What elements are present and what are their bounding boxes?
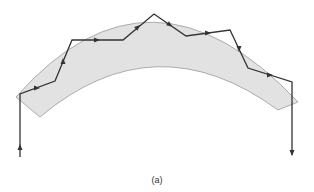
arrow-icon — [18, 144, 23, 150]
arrow-icon — [290, 150, 295, 156]
figure-caption: (a) — [0, 175, 314, 185]
curved-fiber-band — [16, 22, 298, 117]
fiber-optic-diagram — [0, 0, 314, 192]
